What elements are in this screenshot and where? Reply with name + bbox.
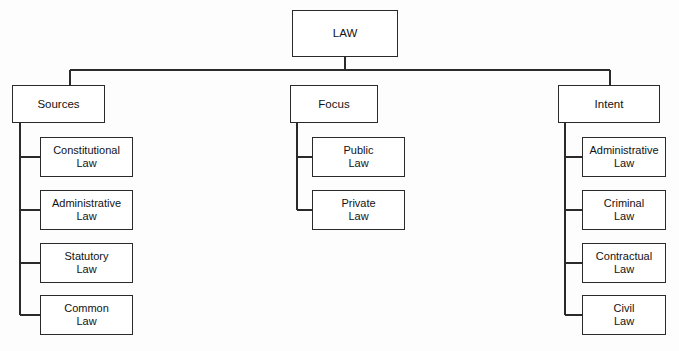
node-leaf-sources-2[interactable]: Statutory Law bbox=[40, 243, 133, 283]
node-leaf-sources-0-label: Constitutional Law bbox=[50, 144, 123, 171]
node-leaf-intent-2[interactable]: Contractual Law bbox=[582, 243, 666, 283]
node-leaf-focus-1[interactable]: Private Law bbox=[312, 190, 405, 230]
node-leaf-focus-0-label: Public Law bbox=[341, 144, 377, 171]
node-leaf-sources-3[interactable]: Common Law bbox=[40, 295, 133, 335]
node-root-law[interactable]: LAW bbox=[292, 10, 398, 57]
node-leaf-focus-1-label: Private Law bbox=[338, 197, 378, 224]
node-branch-sources[interactable]: Sources bbox=[12, 85, 105, 123]
node-leaf-sources-1-label: Administrative Law bbox=[49, 197, 124, 224]
node-root-law-label: LAW bbox=[330, 26, 361, 40]
node-leaf-intent-2-label: Contractual Law bbox=[593, 250, 655, 277]
node-branch-intent[interactable]: Intent bbox=[558, 85, 660, 123]
node-leaf-intent-3-label: Civil Law bbox=[611, 302, 638, 329]
node-leaf-focus-0[interactable]: Public Law bbox=[312, 137, 405, 177]
node-branch-focus-label: Focus bbox=[315, 97, 352, 111]
node-leaf-intent-1-label: Criminal Law bbox=[601, 197, 647, 224]
node-leaf-sources-0[interactable]: Constitutional Law bbox=[40, 137, 133, 177]
node-leaf-sources-2-label: Statutory Law bbox=[61, 250, 111, 277]
node-leaf-intent-0-label: Administrative Law bbox=[586, 144, 661, 171]
node-leaf-sources-1[interactable]: Administrative Law bbox=[40, 190, 133, 230]
node-branch-intent-label: Intent bbox=[592, 97, 627, 111]
node-leaf-intent-3[interactable]: Civil Law bbox=[582, 295, 666, 335]
node-leaf-sources-3-label: Common Law bbox=[61, 302, 112, 329]
node-leaf-intent-0[interactable]: Administrative Law bbox=[582, 137, 666, 177]
node-branch-sources-label: Sources bbox=[34, 97, 82, 111]
node-leaf-intent-1[interactable]: Criminal Law bbox=[582, 190, 666, 230]
node-branch-focus[interactable]: Focus bbox=[290, 85, 378, 123]
law-taxonomy-diagram: LAWSourcesConstitutional LawAdministrati… bbox=[0, 0, 679, 351]
